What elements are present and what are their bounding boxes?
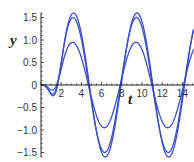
y-tick-label: 0.5 — [23, 57, 37, 68]
x-tick-label: 10 — [136, 88, 148, 99]
x-tick-label: 12 — [157, 88, 169, 99]
x-tick-label: 14 — [177, 88, 189, 99]
x-tick-label: 2 — [58, 88, 64, 99]
y-tick-label: 1.0 — [23, 35, 37, 46]
x-tick-label: 8 — [119, 88, 125, 99]
y-tick-label: 1.5 — [23, 12, 37, 23]
x-tick-label: 4 — [79, 88, 85, 99]
y-tick-label: −1.5 — [17, 147, 37, 158]
x-axis-label: t — [128, 91, 133, 107]
y-tick-label: −0.5 — [17, 102, 37, 113]
y-tick-label: −1.0 — [17, 125, 37, 136]
x-tick-label: 6 — [99, 88, 105, 99]
y-axis-label: y — [8, 32, 17, 48]
y-tick-label: 0 — [31, 80, 37, 91]
y-axis: 1.51.00.50−0.5−1.0−1.5 — [17, 12, 44, 158]
chart: 2468101214 1.51.00.50−0.5−1.0−1.5 y t — [0, 0, 194, 162]
